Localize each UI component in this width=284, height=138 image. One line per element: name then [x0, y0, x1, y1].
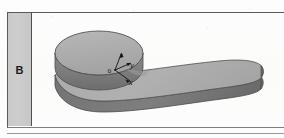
table-row-label-cell: B	[8, 13, 32, 126]
figure-cell: z y x o	[33, 13, 283, 126]
row-label-letter: B	[15, 64, 23, 76]
scanned-figure-page: B	[0, 0, 284, 138]
x-axis-label: x	[129, 79, 133, 87]
z-axis-label: z	[120, 52, 123, 60]
y-axis-label: y	[130, 62, 134, 70]
table-row-separator	[7, 133, 284, 134]
origin-label: o	[108, 67, 112, 75]
axes-label-layer: z y x o	[33, 13, 283, 126]
